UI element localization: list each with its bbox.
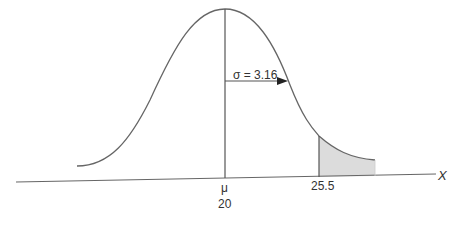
mu-value: 20 (218, 197, 232, 211)
normal-distribution-diagram: σ = 3.16 μ 20 25.5 X (0, 0, 462, 225)
sigma-label: σ = 3.16 (233, 68, 278, 82)
cutoff-label: 25.5 (311, 179, 335, 193)
mu-symbol: μ (221, 181, 228, 195)
bell-curve (77, 9, 375, 166)
sigma-arrowhead-icon (277, 77, 288, 85)
x-axis-label: X (437, 168, 448, 183)
